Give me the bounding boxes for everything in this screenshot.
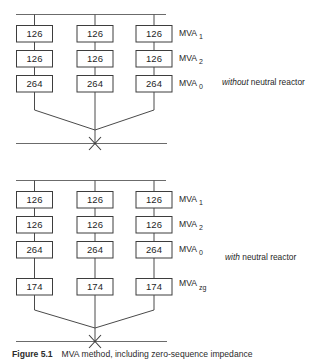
section-annotation: without neutral reactor xyxy=(222,77,305,87)
row-label-subscript: 1 xyxy=(199,199,203,206)
row-label-base: MVA xyxy=(179,278,197,288)
mva-box-value: 264 xyxy=(27,78,43,89)
converge-diagonal-2-right xyxy=(95,310,154,328)
mva-box-value: 126 xyxy=(146,194,162,205)
section-with-neutral-reactor: 126 126 126 MVA 1 126 126 126 MVA 2 264 … xyxy=(16,181,296,349)
mva-box-value: 126 xyxy=(146,219,162,230)
mva-box-value: 264 xyxy=(87,78,103,89)
converge-diagonal-2-left xyxy=(35,310,96,328)
mva-box-value: 126 xyxy=(87,53,103,64)
mva-box-value: 126 xyxy=(87,194,103,205)
row-label-subscript: 2 xyxy=(199,224,203,231)
mva-box-value: 126 xyxy=(27,219,43,230)
figure-caption-clipped: Figure 5.1MVA method, including zero-seq… xyxy=(0,349,332,360)
row-label-base: MVA xyxy=(179,78,197,88)
figure-container: 126 126 126 MVA 1 126 126 126 MVA 2 264 … xyxy=(0,0,332,360)
figure-caption-text: MVA method, including zero-sequence impe… xyxy=(62,349,253,359)
section-annotation-emphasis: with xyxy=(225,252,240,262)
mva-ladder-diagram: 126 126 126 MVA 1 126 126 126 MVA 2 264 … xyxy=(0,0,332,360)
row-label-base: MVA xyxy=(179,244,197,254)
mva-box-value: 174 xyxy=(27,281,43,292)
row-label-base: MVA xyxy=(179,219,197,229)
mva-box-value: 174 xyxy=(87,281,103,292)
section-annotation-emphasis: without xyxy=(222,77,249,87)
row-label-base: MVA xyxy=(179,28,197,38)
figure-caption-number: Figure 5.1 xyxy=(12,349,53,359)
mva-box-value: 126 xyxy=(27,53,43,64)
section-without-neutral-reactor: 126 126 126 MVA 1 126 126 126 MVA 2 264 … xyxy=(16,15,305,151)
mva-box-value: 264 xyxy=(146,78,162,89)
row-label-base: MVA xyxy=(179,194,197,204)
mva-box-value: 126 xyxy=(146,53,162,64)
mva-box-value: 126 xyxy=(87,219,103,230)
row-label-subscript: zg xyxy=(199,284,207,292)
row-label-subscript: 0 xyxy=(199,83,203,90)
mva-box-value: 174 xyxy=(146,281,162,292)
converge-diagonal-1-right xyxy=(95,110,154,130)
mva-box-value: 264 xyxy=(87,244,103,255)
mva-box-value: 264 xyxy=(27,244,43,255)
converge-diagonal-1-left xyxy=(35,110,96,130)
section-annotation-rest: neutral reactor xyxy=(249,77,306,87)
mva-box-value: 264 xyxy=(146,244,162,255)
row-label-subscript: 1 xyxy=(199,33,203,40)
section-annotation-rest: neutral reactor xyxy=(240,252,297,262)
mva-box-value: 126 xyxy=(87,28,103,39)
section-annotation: with neutral reactor xyxy=(225,252,296,262)
mva-box-value: 126 xyxy=(27,194,43,205)
mva-box-value: 126 xyxy=(27,28,43,39)
row-label-base: MVA xyxy=(179,53,197,63)
row-label-subscript: 0 xyxy=(199,249,203,256)
row-label-subscript: 2 xyxy=(199,58,203,65)
mva-box-value: 126 xyxy=(146,28,162,39)
